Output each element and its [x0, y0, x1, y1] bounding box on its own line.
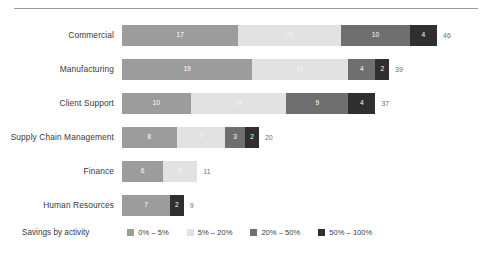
- chart-row: Human Resources729: [0, 192, 492, 218]
- legend-swatch-icon: [250, 229, 257, 236]
- category-label-human-resources: Human Resources: [0, 200, 122, 210]
- stacked-bar: 729: [122, 195, 194, 216]
- bar-segment[interactable]: 17: [122, 25, 238, 46]
- legend-item[interactable]: 5% – 20%: [187, 228, 233, 237]
- segment-value: 4: [360, 100, 364, 107]
- bar-segment[interactable]: 2: [245, 127, 259, 148]
- category-label-commercial: Commercial: [0, 30, 122, 40]
- bar-segment[interactable]: 4: [348, 93, 375, 114]
- legend-item-list: 0% – 5%5% – 20%20% – 50%50% – 100%: [127, 228, 372, 237]
- segment-value: 5: [178, 168, 182, 175]
- stacked-bar: 171510446: [122, 25, 451, 46]
- segment-value: 17: [177, 32, 184, 39]
- legend-item[interactable]: 50% – 100%: [318, 228, 372, 237]
- category-label-finance: Finance: [0, 166, 122, 176]
- bar-segment[interactable]: 14: [191, 93, 287, 114]
- chart-row: Commercial171510446: [0, 22, 492, 48]
- bar-segment[interactable]: 5: [163, 161, 197, 182]
- bar-segment[interactable]: 15: [238, 25, 341, 46]
- legend-title: Savings by activity: [22, 228, 89, 237]
- category-label-supply-chain-management: Supply Chain Management: [0, 132, 122, 142]
- legend-label: 20% – 50%: [261, 228, 300, 237]
- stacked-bar: 873220: [122, 127, 273, 148]
- segment-value: 4: [422, 32, 426, 39]
- bar-segment[interactable]: 4: [410, 25, 437, 46]
- bar-segment[interactable]: 2: [170, 195, 184, 216]
- bar-segment[interactable]: 10: [122, 93, 191, 114]
- legend-label: 0% – 5%: [138, 228, 168, 237]
- segment-value: 19: [183, 66, 190, 73]
- category-label-client-support: Client Support: [0, 98, 122, 108]
- plot-area: Commercial171510446Manufacturing19144239…: [0, 16, 492, 216]
- bar-segment[interactable]: 14: [252, 59, 348, 80]
- segment-value: 3: [233, 134, 237, 141]
- bar-segment[interactable]: 4: [348, 59, 375, 80]
- bar-segment[interactable]: 9: [286, 93, 348, 114]
- segment-value: 7: [144, 202, 148, 209]
- legend-swatch-icon: [127, 229, 134, 236]
- bar-segment[interactable]: 3: [225, 127, 246, 148]
- bar-segment[interactable]: 7: [177, 127, 225, 148]
- segment-value: 6: [141, 168, 145, 175]
- segment-value: 14: [296, 66, 303, 73]
- segment-value: 2: [175, 202, 179, 209]
- chart-row: Client Support10149437: [0, 90, 492, 116]
- segment-value: 2: [250, 134, 254, 141]
- category-label-manufacturing: Manufacturing: [0, 64, 122, 74]
- chart-canvas: Commercial171510446Manufacturing19144239…: [0, 0, 492, 257]
- legend-item[interactable]: 0% – 5%: [127, 228, 168, 237]
- bar-total-label: 46: [443, 32, 451, 39]
- segment-value: 10: [372, 32, 379, 39]
- stacked-bar: 10149437: [122, 93, 389, 114]
- bar-segment[interactable]: 10: [341, 25, 410, 46]
- bar-segment[interactable]: 19: [122, 59, 252, 80]
- bar-segment[interactable]: 6: [122, 161, 163, 182]
- segment-value: 10: [153, 100, 160, 107]
- stacked-bar: 19144239: [122, 59, 403, 80]
- chart-row: Finance6511: [0, 158, 492, 184]
- legend-label: 50% – 100%: [329, 228, 372, 237]
- bar-segment[interactable]: 7: [122, 195, 170, 216]
- bar-total-label: 9: [190, 202, 194, 209]
- segment-value: 7: [199, 134, 203, 141]
- stacked-bar: 6511: [122, 161, 211, 182]
- top-divider: [14, 8, 478, 9]
- legend-item[interactable]: 20% – 50%: [250, 228, 300, 237]
- bar-segment[interactable]: 8: [122, 127, 177, 148]
- segment-value: 4: [360, 66, 364, 73]
- segment-value: 9: [315, 100, 319, 107]
- segment-value: 8: [148, 134, 152, 141]
- chart-row: Supply Chain Management873220: [0, 124, 492, 150]
- bar-segment[interactable]: 2: [375, 59, 389, 80]
- segment-value: 15: [286, 32, 293, 39]
- chart-row: Manufacturing19144239: [0, 56, 492, 82]
- chart-legend: Savings by activity 0% – 5%5% – 20%20% –…: [0, 224, 492, 240]
- segment-value: 14: [235, 100, 242, 107]
- bar-total-label: 20: [265, 134, 273, 141]
- segment-value: 2: [380, 66, 384, 73]
- bar-total-label: 37: [381, 100, 389, 107]
- legend-swatch-icon: [318, 229, 325, 236]
- legend-swatch-icon: [187, 229, 194, 236]
- bar-total-label: 39: [395, 66, 403, 73]
- legend-label: 5% – 20%: [198, 228, 233, 237]
- bar-total-label: 11: [203, 168, 210, 175]
